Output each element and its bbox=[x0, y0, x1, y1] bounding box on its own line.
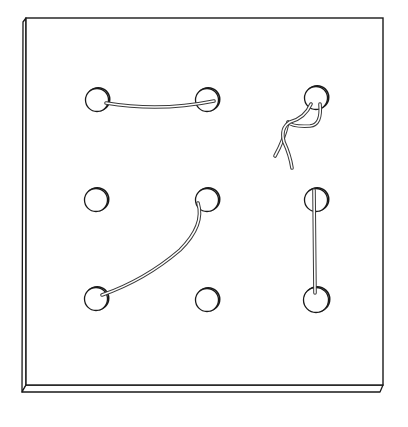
hole-opening bbox=[85, 189, 108, 212]
board-bottom-side bbox=[22, 385, 383, 392]
hole-opening bbox=[305, 189, 328, 212]
hole-r2c1 bbox=[85, 188, 109, 212]
hole-r3c2 bbox=[196, 288, 220, 312]
hole-r3c1 bbox=[85, 287, 109, 311]
hole-opening bbox=[86, 89, 109, 112]
string-r2c3-r3c3 bbox=[314, 190, 315, 293]
board-illustration bbox=[0, 0, 408, 427]
hole-r1c1 bbox=[86, 88, 110, 112]
hole-opening bbox=[85, 288, 108, 311]
lacing-board-figure: Lacing pegboard with 3x3 holes and strin… bbox=[0, 0, 408, 427]
hole-opening bbox=[196, 289, 219, 312]
hole-opening bbox=[305, 87, 328, 110]
hole-r1c2 bbox=[196, 88, 220, 112]
hole-r2c3 bbox=[305, 188, 329, 212]
